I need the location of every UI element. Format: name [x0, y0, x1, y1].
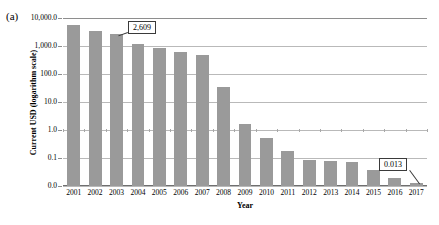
bar-2013 [324, 161, 337, 186]
bar-2003 [110, 34, 123, 186]
x-tick-label: 2013 [323, 188, 338, 198]
bar-2002 [89, 31, 102, 186]
y-tick-label: 10.0 [44, 98, 57, 106]
bar-2012 [303, 160, 316, 186]
bar-2004 [132, 44, 145, 186]
x-tick-label: 2014 [345, 188, 360, 198]
gridline [63, 18, 427, 19]
y-tick-mark [58, 158, 62, 159]
x-tick-label: 2010 [259, 188, 274, 198]
x-tick-label: 2005 [152, 188, 167, 198]
x-tick-label: 2017 [409, 188, 424, 198]
x-tick-label: 2004 [130, 188, 145, 198]
x-tick-label: 2009 [238, 188, 253, 198]
y-tick-mark [58, 46, 62, 47]
x-tick-label: 2006 [173, 188, 188, 198]
y-tick-mark [58, 186, 62, 187]
y-tick-mark [58, 130, 62, 131]
y-tick-mark [58, 102, 62, 103]
annotation-callout-2609: 2,609 [128, 21, 156, 34]
y-tick-label: 1.0 [48, 126, 57, 134]
bar-2006 [174, 52, 187, 186]
y-tick-mark [58, 74, 62, 75]
bar-2015 [367, 170, 380, 186]
bar-2014 [346, 162, 359, 186]
y-tick-label: 1,000.0 [35, 42, 58, 50]
y-tick-mark [58, 18, 62, 19]
x-axis-title: Year [63, 201, 427, 210]
figure-panel-a: (a) Current USD (logarithm scale) 10,000… [0, 0, 439, 225]
x-tick-label: 2015 [366, 188, 381, 198]
bar-2007 [196, 55, 209, 186]
bar-2008 [217, 87, 230, 186]
y-tick-label: 0.0 [48, 182, 57, 190]
bar-2001 [67, 25, 80, 186]
x-tick-label: 2012 [302, 188, 317, 198]
x-tick-label: 2011 [280, 188, 295, 198]
x-tick-label: 2008 [216, 188, 231, 198]
plot-area [63, 18, 427, 186]
x-tick-label: 2016 [387, 188, 402, 198]
x-tick-label: 2003 [109, 188, 124, 198]
x-axis-tick-labels: 2001200220032004200520062007200820092010… [63, 188, 427, 200]
x-tick-label: 2001 [66, 188, 81, 198]
x-tick-label: 2002 [88, 188, 103, 198]
bar-2017 [410, 183, 423, 186]
bar-2016 [388, 178, 401, 186]
bar-2005 [153, 48, 166, 186]
y-axis-ticks: 10,000.01,000.0100.010.01.00.10.0 [0, 18, 63, 186]
bar-2010 [260, 138, 273, 186]
annotation-callout-0013: 0.013 [379, 158, 407, 171]
y-tick-label: 100.0 [40, 70, 57, 78]
bar-2009 [239, 124, 252, 186]
x-tick-label: 2007 [195, 188, 210, 198]
y-tick-label: 0.1 [48, 154, 57, 162]
y-tick-label: 10,000.0 [31, 14, 57, 22]
gridline [63, 186, 427, 187]
bar-2011 [281, 151, 294, 186]
